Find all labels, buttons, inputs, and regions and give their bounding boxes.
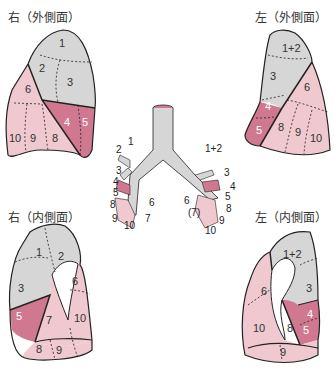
svg-text:5: 5 [113,187,119,198]
svg-text:4: 4 [307,308,313,320]
svg-text:8: 8 [287,322,293,334]
svg-text:6: 6 [304,81,310,93]
svg-text:10: 10 [124,220,136,231]
svg-text:6: 6 [261,285,267,297]
svg-text:2: 2 [116,144,122,155]
svg-text:1+2: 1+2 [282,42,301,54]
svg-text:6: 6 [25,83,31,95]
svg-text:4: 4 [265,100,271,112]
right-medial-lung: 1 2 3 6 5 7 10 8 9 [10,224,93,360]
svg-text:8: 8 [226,203,232,214]
svg-text:5: 5 [16,310,22,322]
svg-text:5: 5 [256,124,262,136]
right-lateral-lung: 1 2 3 6 4 5 10 9 8 [6,30,95,157]
lung-segments-diagram: 1 2 3 6 4 5 10 9 8 1+2 3 6 4 5 8 9 10 [0,0,334,368]
svg-text:4: 4 [113,176,119,187]
left-lateral-lung: 1+2 3 6 4 5 8 9 10 [245,30,330,155]
svg-text:10: 10 [74,312,86,324]
svg-text:9: 9 [56,344,62,356]
svg-text:4: 4 [230,181,236,192]
svg-text:8: 8 [110,199,116,210]
svg-text:9: 9 [295,126,301,138]
svg-text:6: 6 [72,275,78,287]
svg-text:(7): (7) [188,207,200,218]
svg-text:10: 10 [253,322,265,334]
svg-text:10: 10 [9,132,21,144]
svg-text:10: 10 [310,132,322,144]
svg-text:1+2: 1+2 [205,143,222,154]
svg-text:8: 8 [36,343,42,355]
svg-text:9: 9 [30,132,36,144]
svg-text:9: 9 [112,213,118,224]
svg-text:5: 5 [225,191,231,202]
svg-text:8: 8 [278,121,284,133]
svg-text:4: 4 [64,116,70,128]
svg-text:7: 7 [145,213,151,224]
svg-text:3: 3 [306,282,312,294]
svg-text:3: 3 [116,165,122,176]
left-medial-lung: 1+2 3 6 4 5 10 8 9 [242,232,319,363]
svg-text:1: 1 [128,136,134,147]
bronchial-tree: 1 2 3 4 5 8 9 10 7 6 1+2 3 4 5 8 6 (7) 9… [110,105,236,236]
svg-text:9: 9 [219,215,225,226]
svg-text:1: 1 [36,246,42,258]
svg-text:8: 8 [52,132,58,144]
svg-text:2: 2 [39,62,45,74]
svg-text:10: 10 [205,225,217,236]
svg-text:3: 3 [67,76,73,88]
svg-text:3: 3 [224,167,230,178]
svg-text:5: 5 [82,116,88,128]
svg-text:1+2: 1+2 [283,248,302,260]
svg-text:3: 3 [18,282,24,294]
svg-text:3: 3 [270,70,276,82]
svg-text:9: 9 [280,346,286,358]
svg-text:5: 5 [303,324,309,336]
svg-text:2: 2 [58,250,64,262]
svg-text:6: 6 [149,197,155,208]
svg-text:7: 7 [46,314,52,326]
svg-text:1: 1 [59,37,65,49]
svg-text:6: 6 [184,195,190,206]
